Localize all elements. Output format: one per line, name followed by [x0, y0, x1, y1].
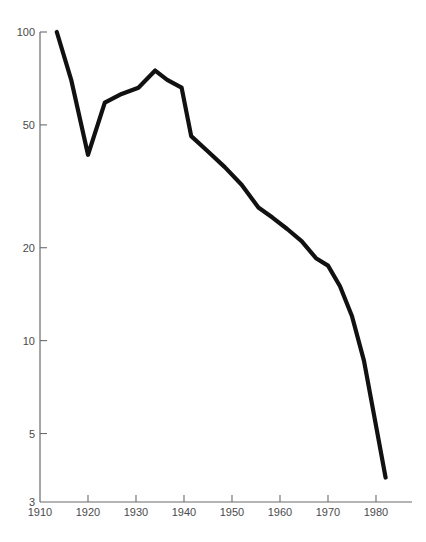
- y-tick-label: 50: [23, 119, 35, 131]
- data-series-group: [57, 32, 386, 478]
- x-tick-label: 1980: [364, 506, 388, 518]
- chart-container: 10050201053 1910192019301940195019601970…: [0, 0, 426, 542]
- x-tick-label: 1940: [172, 506, 196, 518]
- x-tick-label: 1910: [28, 506, 52, 518]
- x-tick-label: 1970: [316, 506, 340, 518]
- x-tick-label: 1960: [268, 506, 292, 518]
- line-chart: 10050201053 1910192019301940195019601970…: [0, 0, 426, 542]
- y-tick-label: 5: [29, 428, 35, 440]
- y-tick-label: 10: [23, 335, 35, 347]
- x-tick-label: 1920: [76, 506, 100, 518]
- x-tick-label: 1950: [220, 506, 244, 518]
- y-tick-label: 20: [23, 242, 35, 254]
- x-axis-years: 19101920193019401950196019701980: [28, 495, 412, 518]
- x-tick-label: 1930: [124, 506, 148, 518]
- data-line-series-1: [57, 32, 386, 478]
- y-axis-log-scale: 10050201053: [17, 26, 47, 508]
- y-tick-label: 100: [17, 26, 35, 38]
